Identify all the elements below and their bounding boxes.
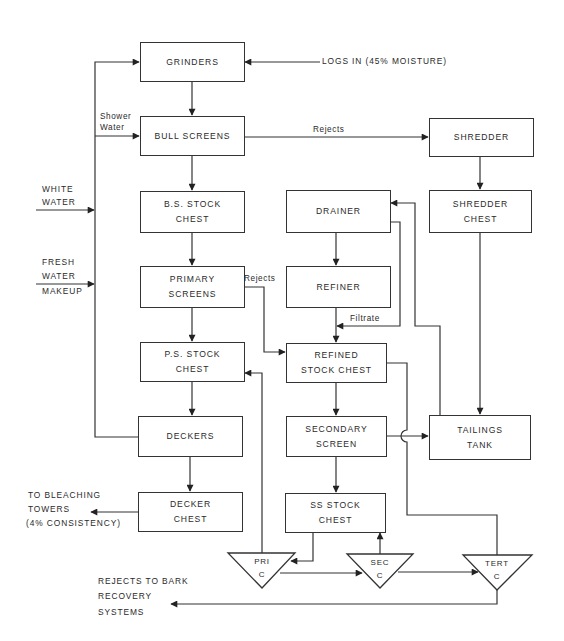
bs-stock-chest-label-2: CHEST [176,212,210,227]
pri-cleaner-label-2: C [242,568,282,581]
drainer-label: DRAINER [316,204,361,219]
secondary-screen-label-1: SECONDARY [305,422,367,437]
ps-stock-chest-label-1: P.S. STOCK [165,347,221,362]
tailings-tank-label-2: TANK [467,438,493,453]
decker-chest-label-1: DECKER [170,497,211,512]
tert-cleaner-label-1: TERT [477,557,517,570]
bull-screens-label: BULL SCREENS [155,129,231,144]
secondary-screen-label-2: SCREEN [316,437,357,452]
logs-in-label: LOGS IN (45% MOISTURE) [322,55,447,69]
primary-screens-label-2: SCREENS [169,287,217,302]
bs-stock-chest-box: B.S. STOCK CHEST [140,191,245,233]
white-water-label-2: WATER [42,196,76,210]
decker-chest-label-2: CHEST [174,512,208,527]
bark-recovery-label-2: RECOVERY [98,590,152,604]
bleaching-label-3: (4% CONSISTENCY) [26,517,121,531]
decker-chest-box: DECKER CHEST [138,492,243,532]
pri-cleaner-label-1: PRI [242,555,282,568]
bark-recovery-label-1: REJECTS TO BARK [98,575,188,589]
refined-stock-chest-box: REFINED STOCK CHEST [286,343,387,383]
sec-cleaner-label-2: C [360,569,400,582]
ss-stock-chest-box: SS STOCK CHEST [285,493,386,533]
refined-stock-chest-label-2: STOCK CHEST [301,363,372,378]
refiner-label: REFINER [316,280,360,295]
deckers-box: DECKERS [138,416,243,457]
fresh-water-label-2: WATER [42,270,76,284]
fresh-water-label-1: FRESH [42,256,75,270]
shredder-chest-label-2: CHEST [464,212,498,227]
bark-recovery-label-3: SYSTEMS [98,606,144,620]
filtrate-label: Filtrate [350,312,380,326]
grinders-box: GRINDERS [140,42,245,82]
grinders-label: GRINDERS [166,55,219,70]
shower-water-label-2: Water [100,121,125,135]
primary-screens-label-1: PRIMARY [170,272,215,287]
shredder-box: SHREDDER [429,118,534,157]
sec-cleaner-label: SEC C [360,556,400,582]
ss-stock-chest-label-2: CHEST [319,513,353,528]
edge-primary-rejects [244,287,285,352]
tailings-tank-box: TAILINGS TANK [429,415,531,460]
refined-stock-chest-label-1: REFINED [314,348,358,363]
primary-rejects-label: Rejects [244,272,276,286]
tert-cleaner-label: TERT C [477,557,517,583]
secondary-screen-box: SECONDARY SCREEN [286,416,387,457]
bs-stock-chest-label-1: B.S. STOCK [164,197,221,212]
drainer-box: DRAINER [286,190,391,233]
sec-cleaner-label-1: SEC [360,556,400,569]
ss-stock-chest-label-1: SS STOCK [310,498,361,513]
tailings-tank-label-1: TAILINGS [457,423,503,438]
shredder-chest-box: SHREDDER CHEST [429,190,532,233]
refiner-box: REFINER [286,266,391,308]
edge-pric-to-pschest [245,373,262,553]
bleaching-label-2: TOWERS [28,503,70,517]
primary-screens-box: PRIMARY SCREENS [140,266,245,308]
ps-stock-chest-label-2: CHEST [176,362,210,377]
bull-rejects-label: Rejects [313,123,345,137]
flow-connectors [0,0,564,641]
deckers-label: DECKERS [167,429,215,444]
white-water-label-1: WHITE [42,183,73,197]
ps-stock-chest-box: P.S. STOCK CHEST [140,342,245,382]
pri-cleaner-label: PRI C [242,555,282,581]
tert-cleaner-label-2: C [477,570,517,583]
shredder-chest-label-1: SHREDDER [453,197,508,212]
shredder-label: SHREDDER [454,130,509,145]
edge-sschest-to-pric [291,532,313,561]
edge-tailings-to-drainer [391,203,440,415]
bull-screens-box: BULL SCREENS [140,116,245,156]
fresh-water-label-3: MAKEUP [42,285,83,299]
bleaching-label-1: TO BLEACHING [28,489,101,503]
edge-tertc-to-bark [171,590,497,604]
